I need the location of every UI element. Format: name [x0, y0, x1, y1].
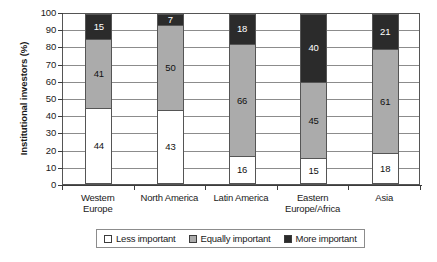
y-axis-tick-label: 20	[28, 146, 56, 156]
x-axis-tick-mark	[134, 185, 135, 190]
x-axis-tick-mark	[420, 185, 421, 190]
bar-value-label: 40	[309, 43, 319, 53]
bar-stack[interactable]: 186616	[229, 14, 256, 184]
x-axis-tick-mark	[277, 185, 278, 190]
legend-label: Equally important	[201, 234, 271, 244]
y-axis-tick-mark	[58, 151, 63, 152]
y-axis-tick-mark	[58, 65, 63, 66]
y-axis-tick-label: 40	[28, 111, 56, 121]
bar-segment[interactable]: 18	[229, 14, 256, 45]
chart-legend: Less importantEqually importantMore impo…	[96, 229, 365, 248]
y-axis-tick-label: 100	[28, 8, 56, 18]
bar-segment[interactable]: 15	[85, 14, 112, 40]
x-axis-line	[58, 185, 422, 186]
y-axis-tick-mark	[58, 13, 63, 14]
x-axis-category-label: WesternEurope	[62, 192, 134, 214]
bar-value-label: 15	[94, 22, 104, 32]
legend-swatch-icon	[104, 235, 112, 243]
bar-value-label: 43	[165, 142, 175, 152]
legend-item[interactable]: Equally important	[189, 234, 271, 244]
x-axis-category-label: Asia	[348, 192, 420, 203]
x-axis-tick-mark	[205, 185, 206, 190]
bar-stack[interactable]: 216118	[372, 14, 399, 184]
bar-value-label: 61	[380, 97, 390, 107]
y-axis-tick-label: 70	[28, 60, 56, 70]
y-axis-tick-label: 30	[28, 128, 56, 138]
y-axis-tick-mark	[58, 99, 63, 100]
bar-segment[interactable]: 50	[157, 25, 184, 111]
x-axis-category-label: Latin America	[205, 192, 277, 203]
bar-segment[interactable]: 43	[157, 110, 184, 184]
bar-segment[interactable]: 40	[300, 14, 327, 83]
bar-value-label: 18	[380, 164, 390, 174]
x-axis-tick-mark	[348, 185, 349, 190]
bar-segment[interactable]: 44	[85, 108, 112, 184]
bar-segment[interactable]: 15	[300, 158, 327, 184]
legend-swatch-icon	[189, 235, 197, 243]
bar-segment[interactable]: 21	[372, 14, 399, 50]
y-axis-tick-mark	[58, 30, 63, 31]
y-axis-tick-label: 80	[28, 42, 56, 52]
legend-item[interactable]: More important	[284, 234, 357, 244]
y-axis-tick-mark	[58, 133, 63, 134]
y-axis-title: Institutional investors (%)	[18, 9, 29, 189]
bar-stack[interactable]: 404515	[300, 14, 327, 184]
stacked-bar-chart: Institutional investors (%) 100908070605…	[0, 0, 437, 262]
plot-area: 15414475043186616404515216118	[62, 13, 420, 185]
bar-value-label: 50	[165, 63, 175, 73]
legend-label: Less important	[116, 234, 176, 244]
x-axis-tick-mark	[62, 185, 63, 190]
bar-stack[interactable]: 154144	[85, 14, 112, 184]
y-axis-tick-mark	[58, 82, 63, 83]
bar-value-label: 7	[168, 15, 173, 25]
y-axis-tick-labels: 1009080706050403020100	[28, 13, 56, 185]
bar-segment[interactable]: 61	[372, 49, 399, 154]
x-axis-category-label: North America	[134, 192, 206, 203]
bar-value-label: 45	[309, 116, 319, 126]
y-axis-tick-label: 90	[28, 25, 56, 35]
bar-segment[interactable]: 66	[229, 44, 256, 158]
bar-value-label: 44	[94, 141, 104, 151]
legend-item[interactable]: Less important	[104, 234, 176, 244]
y-axis-tick-label: 60	[28, 77, 56, 87]
y-axis-tick-label: 0	[28, 180, 56, 190]
bar-segment[interactable]: 16	[229, 156, 256, 184]
legend-label: More important	[296, 234, 357, 244]
bar-value-label: 18	[237, 24, 247, 34]
bar-value-label: 21	[380, 27, 390, 37]
bar-segment[interactable]: 41	[85, 39, 112, 110]
bar-value-label: 15	[309, 166, 319, 176]
x-axis-category-label: EasternEurope/Africa	[277, 192, 349, 214]
bar-value-label: 16	[237, 165, 247, 175]
bar-stack[interactable]: 75043	[157, 14, 184, 184]
y-axis-tick-label: 50	[28, 94, 56, 104]
y-axis-tick-mark	[58, 116, 63, 117]
bar-segment[interactable]: 45	[300, 82, 327, 159]
y-axis-tick-label: 10	[28, 163, 56, 173]
y-axis-tick-mark	[58, 47, 63, 48]
y-axis-tick-mark	[58, 168, 63, 169]
bar-value-label: 41	[94, 69, 104, 79]
bar-value-label: 66	[237, 96, 247, 106]
bar-segment[interactable]: 18	[372, 153, 399, 184]
legend-swatch-icon	[284, 235, 292, 243]
